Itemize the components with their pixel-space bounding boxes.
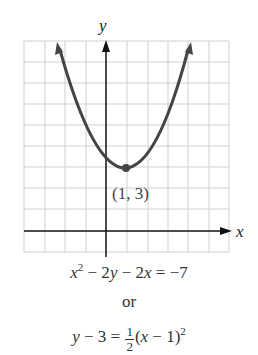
- x-axis-label: x: [235, 222, 244, 241]
- var-x: x: [141, 327, 149, 346]
- var-y: y: [72, 327, 80, 346]
- x-axis: [24, 227, 232, 235]
- term: − 3 =: [80, 327, 125, 346]
- var-x: x: [70, 263, 78, 282]
- exponent: 2: [180, 325, 186, 337]
- var-x: x: [144, 263, 152, 282]
- term: = −7: [152, 263, 188, 282]
- denominator: 2: [125, 340, 134, 354]
- term: − 1): [148, 327, 180, 346]
- y-axis: [102, 40, 110, 257]
- y-axis-arrow-icon: [102, 40, 110, 52]
- y-axis-label: y: [97, 16, 107, 35]
- parabola-graph: x y (1, 3): [0, 0, 258, 262]
- parabola-curve: [60, 50, 188, 168]
- vertex-point: [122, 164, 130, 172]
- x-axis-arrow-icon: [220, 227, 232, 235]
- grid: [24, 41, 229, 252]
- equation-general-form: x2 − 2y − 2x = −7: [0, 263, 258, 283]
- numerator: 1: [125, 325, 134, 340]
- equation-connector: or: [0, 292, 258, 312]
- fraction-one-half: 12: [125, 325, 134, 354]
- equation-vertex-form: y − 3 = 12(x − 1)2: [0, 325, 258, 354]
- term: − 2: [83, 263, 110, 282]
- vertex-label: (1, 3): [112, 184, 149, 203]
- term: − 2: [117, 263, 144, 282]
